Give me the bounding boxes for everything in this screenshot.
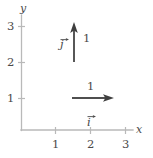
- i-hat-magnitude-label: 1: [87, 81, 94, 93]
- y-tick-label-1: 1: [7, 93, 14, 105]
- i-hat-symbol: i: [87, 115, 91, 129]
- figure-canvas: [0, 0, 153, 158]
- x-tick-label-3: 3: [122, 139, 129, 151]
- j-hat-vector-label: j: [60, 39, 153, 51]
- y-axis-label: y: [20, 3, 26, 14]
- x-tick-label-2: 2: [87, 139, 94, 151]
- y-tick-label-3: 3: [7, 21, 14, 33]
- vector-basis-figure: y x 1 2 3 1 2 3 j 1 1 i: [0, 0, 153, 158]
- j-hat-symbol: j: [60, 37, 64, 51]
- i-hat-vector-label: i: [87, 117, 153, 129]
- y-tick-label-2: 2: [7, 57, 14, 69]
- j-hat-magnitude-label: 1: [83, 33, 90, 45]
- x-tick-label-1: 1: [52, 139, 59, 151]
